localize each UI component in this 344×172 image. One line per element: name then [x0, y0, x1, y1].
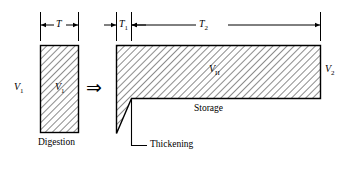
- dimension-label-T2: T2: [199, 19, 208, 29]
- caption-digestion: Digestion: [38, 138, 75, 148]
- volume-label-v2-outer-sub: 2: [331, 69, 335, 77]
- volume-label-v2-outer: V2: [325, 64, 335, 74]
- dimension-label-T: T: [56, 19, 62, 29]
- caption-digestion-text: Digestion: [38, 137, 75, 147]
- volume-label-v1-inner-sub: 1: [61, 87, 65, 95]
- dimension-label-T1-sub: 1: [125, 24, 129, 32]
- volume-label-v1-outer-sub: 1: [20, 87, 24, 95]
- dimension-extension-lines: [41, 12, 321, 41]
- storage-block: [117, 46, 321, 134]
- thickening-leader-line: [132, 99, 148, 146]
- caption-storage-text: Storage: [194, 103, 223, 113]
- volume-label-v2-inner: VII: [209, 64, 220, 74]
- figure-canvas: T T1 T2 V1 V1 VII V2 ⇒ Digestion Storage…: [0, 0, 344, 172]
- caption-thickening: Thickening: [150, 140, 193, 150]
- dimension-label-T2-sub: 2: [205, 24, 209, 32]
- volume-label-v1-inner: V1: [55, 82, 65, 92]
- implies-arrow-icon: ⇒: [86, 78, 102, 97]
- volume-label-v2-inner-sub: II: [215, 69, 220, 77]
- caption-storage: Storage: [194, 104, 223, 114]
- dimension-label-T-text: T: [56, 18, 62, 29]
- caption-thickening-text: Thickening: [150, 139, 193, 149]
- volume-label-v1-outer: V1: [14, 82, 24, 92]
- implies-arrow-glyph: ⇒: [86, 76, 102, 98]
- dimension-label-T1: T1: [119, 19, 128, 29]
